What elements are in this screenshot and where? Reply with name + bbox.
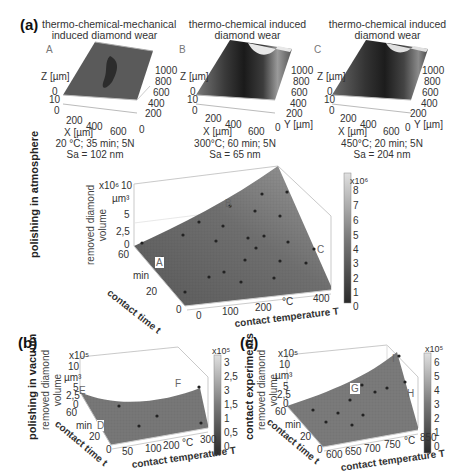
main-cbar-tick: 1 bbox=[353, 287, 359, 298]
b-T-tick: 300 bbox=[200, 434, 217, 445]
marker-E: E bbox=[79, 385, 86, 396]
main-t-tick: 0 bbox=[176, 304, 182, 315]
c-cbar-tick: 2 bbox=[434, 413, 440, 424]
c-T-tick: 650 bbox=[345, 446, 362, 457]
c-T-tick: 600 bbox=[326, 449, 343, 460]
b-T-unit: °C bbox=[182, 437, 193, 448]
c-t-tick: 60 bbox=[275, 406, 286, 417]
main-z-tick: 2,5 bbox=[116, 226, 130, 237]
c-z-unit: µm³ bbox=[275, 370, 292, 381]
main-cbar-tick: 7 bbox=[353, 200, 359, 211]
b-T-tick: 100 bbox=[145, 443, 162, 454]
b-t-tick: 0 bbox=[106, 444, 112, 455]
b-t-tick: 60 bbox=[66, 407, 77, 418]
c-T-unit: °C bbox=[404, 435, 415, 446]
b-T-tick: 200 bbox=[163, 440, 180, 451]
main-cbar-tick: 8 bbox=[353, 185, 359, 196]
main-cbar-tick: 6 bbox=[353, 215, 359, 226]
marker-D: D bbox=[97, 420, 104, 431]
row-label-vacuum: polishing in vacuum bbox=[26, 334, 38, 440]
main-z-label-1: removed diamond bbox=[85, 185, 96, 265]
marker-A: A bbox=[155, 257, 164, 268]
main-cbar-tick: 4 bbox=[353, 244, 359, 255]
main-T-tick: 200 bbox=[255, 302, 272, 313]
main-cbar-tick: 2 bbox=[353, 273, 359, 284]
c-cbar-exp: x10⁵ bbox=[425, 344, 443, 355]
b-z-tick: 10 bbox=[68, 361, 79, 372]
c-cbar-tick: 0 bbox=[434, 441, 440, 452]
b-T-tick: 50 bbox=[122, 446, 133, 457]
c-cbar-tick: 3 bbox=[434, 399, 440, 410]
c-cbar-tick: 1 bbox=[434, 427, 440, 438]
b-cbar-tick: 1,5 bbox=[224, 399, 238, 410]
marker-G: G bbox=[350, 383, 360, 394]
c-T-tick: 700 bbox=[364, 443, 381, 454]
main-z-tick: 5 bbox=[124, 209, 130, 220]
b-cbar-tick: 0,5 bbox=[224, 427, 238, 438]
b-cbar-tick: 0 bbox=[224, 441, 230, 452]
c-z-label-1: removed diamond bbox=[256, 350, 267, 430]
main-t-unit: min bbox=[133, 270, 149, 281]
c-t-tick: 0 bbox=[317, 444, 323, 455]
main-cbar-tick: 5 bbox=[353, 230, 359, 241]
c-cbar-tick: 5 bbox=[434, 371, 440, 382]
b-t-unit: min bbox=[76, 420, 92, 431]
main-T-unit: °C bbox=[282, 296, 293, 307]
main-T-tick: 400 bbox=[313, 293, 330, 304]
main-t-tick: 60 bbox=[118, 249, 129, 260]
b-t-tick: 20 bbox=[89, 431, 100, 442]
main-z-exp: x10⁶ bbox=[99, 180, 119, 191]
marker-H: H bbox=[407, 388, 414, 399]
marker-B: B bbox=[225, 198, 232, 209]
b-cbar-tick: 3 bbox=[224, 385, 230, 396]
main-T-tick: 0 bbox=[196, 310, 202, 321]
c-T-tick: 750 bbox=[384, 439, 401, 450]
b-cbar-exp: x10⁵ bbox=[212, 346, 230, 357]
b-cbar-tick: 2,5 bbox=[224, 371, 238, 382]
b-z-label-2: volume bbox=[52, 370, 63, 410]
c-cbar-tick: 4 bbox=[434, 385, 440, 396]
b-cbar-tick: 1 bbox=[224, 413, 230, 424]
b-z-exp: x10⁵ bbox=[69, 350, 89, 361]
row-label-contact: contact experiments bbox=[243, 333, 255, 440]
main-t-tick: 20 bbox=[146, 286, 157, 297]
main-cbar-tick: 3 bbox=[353, 258, 359, 269]
main-z-unit: µm³ bbox=[112, 193, 129, 204]
main-z-tick: 10 bbox=[121, 180, 132, 191]
marker-I: I bbox=[392, 353, 395, 364]
c-z-exp: x10⁵ bbox=[278, 348, 298, 359]
main-cbar-tick: 0 bbox=[353, 301, 359, 312]
b-z-label-1: removed diamond bbox=[40, 350, 51, 430]
main-z-label-2: volume bbox=[97, 205, 108, 245]
b-cbar-tick: 3 bbox=[224, 357, 230, 368]
c-z-tick: 10 bbox=[279, 359, 290, 370]
marker-C: C bbox=[317, 244, 324, 255]
c-cbar-tick: 6 bbox=[434, 357, 440, 368]
main-T-tick: 100 bbox=[222, 306, 239, 317]
marker-F: F bbox=[175, 378, 181, 389]
